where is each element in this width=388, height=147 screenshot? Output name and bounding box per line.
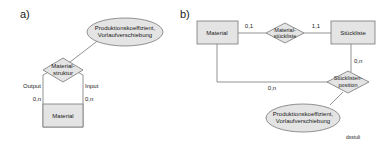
card-0n-horiz: 0,n xyxy=(268,85,276,91)
role-input: Input xyxy=(85,83,99,89)
er-diagram: a) Produktionskoeffizient, Vorlaufversch… xyxy=(0,0,388,147)
rel-ms-line2: stückliste xyxy=(274,33,297,39)
panel-a: a) Produktionskoeffizient, Vorlaufversch… xyxy=(20,8,163,127)
card-0n-vert: 0,n xyxy=(354,58,362,64)
attribute-line1: Produktionskoeffizient, xyxy=(95,25,156,31)
card-right: 0,n xyxy=(85,96,93,102)
rel-sp-line1: Stücklisten- xyxy=(334,75,363,81)
entity-material-b-label: Material xyxy=(206,30,227,36)
attribute-b-line1: Produktionskoeffizient, xyxy=(273,111,334,117)
card-left: 0,n xyxy=(33,96,41,102)
attribute-line2: Vorlaufverschiebung xyxy=(98,32,152,38)
panel-b: b) Material Stückliste Material- stückli… xyxy=(180,8,375,132)
attribute-b-line2: Vorlaufverschiebung xyxy=(276,118,330,124)
card-11: 1,1 xyxy=(312,23,321,29)
panel-a-label: a) xyxy=(20,8,30,20)
entity-material-label: Material xyxy=(52,113,73,119)
figure-code: dsstuli xyxy=(346,134,360,140)
panel-b-label: b) xyxy=(180,8,190,20)
rel-line2: struktur xyxy=(53,70,73,76)
entity-stueckliste-label: Stückliste xyxy=(340,30,366,36)
rel-sp-line2: position xyxy=(339,82,358,88)
role-output: Output xyxy=(23,83,41,89)
rel-line1: Material- xyxy=(51,63,74,69)
card-01: 0,1 xyxy=(245,23,254,29)
